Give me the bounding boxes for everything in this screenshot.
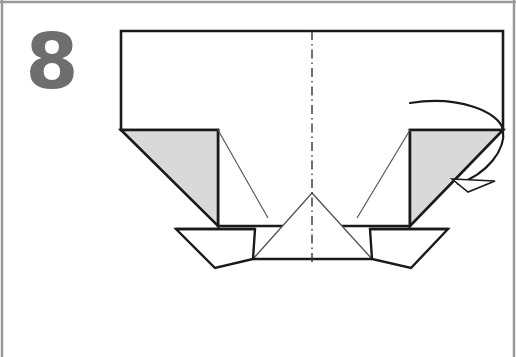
fold-rotation-arrowhead [452, 179, 495, 192]
bottom-left-flap [176, 229, 255, 268]
right-shaded-triangle [410, 130, 503, 226]
step-number-label: 8 [14, 22, 88, 102]
bottom-right-flap [370, 229, 448, 268]
left-shaded-triangle [121, 130, 218, 226]
origami-diagram-figure: 8 [0, 0, 516, 357]
